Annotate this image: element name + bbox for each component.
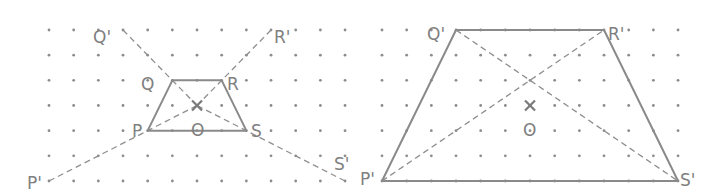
grid-dot (603, 79, 606, 82)
grid-dot (504, 79, 507, 82)
label-s-prime: S' (680, 170, 695, 190)
left-panel-construction: P Q R S O P' Q' R' S' (27, 27, 349, 193)
grid-dot (627, 154, 630, 157)
grid-dot (553, 79, 556, 82)
grid-dot (603, 154, 606, 157)
grid-dot (122, 54, 125, 57)
grid-dot (430, 54, 433, 57)
diagonal (456, 30, 678, 181)
grid-dot (479, 104, 482, 107)
grid-dot (455, 79, 458, 82)
grid-dot (627, 104, 630, 107)
grid-dot (381, 129, 384, 132)
label-s-prime: S' (334, 154, 349, 174)
grid-dot (146, 29, 149, 32)
grid-dot (48, 54, 51, 57)
grid-dot (627, 29, 630, 32)
enlargement-diagram: P Q R S O P' Q' R' S' O P' Q' R' S' (0, 0, 723, 195)
grid-dot (122, 79, 125, 82)
grid-dot (455, 54, 458, 57)
grid-dot (245, 104, 248, 107)
grid-dot (220, 180, 223, 183)
label-q-prime: Q' (93, 27, 111, 47)
grid-dot (270, 54, 273, 57)
grid-dot (270, 129, 273, 132)
diagonal (382, 30, 604, 181)
grid-dot (220, 104, 223, 107)
grid-dot (245, 180, 248, 183)
grid-dot (652, 54, 655, 57)
grid-dot (270, 154, 273, 157)
grid-dot (171, 180, 174, 183)
grid-dot (455, 104, 458, 107)
grid-dot (72, 180, 75, 183)
grid-dot (319, 54, 322, 57)
label-r: R (227, 74, 239, 94)
grid-dot (146, 154, 149, 157)
grid-dot (270, 79, 273, 82)
grid-dot (97, 79, 100, 82)
grid-dot (504, 104, 507, 107)
grid-dot (578, 104, 581, 107)
grid-dot (122, 129, 125, 132)
grid-dot (294, 54, 297, 57)
ray-s (197, 106, 345, 182)
grid-dot (677, 129, 680, 132)
grid-dot (381, 154, 384, 157)
grid-dot (381, 104, 384, 107)
grid-dot (553, 104, 556, 107)
grid-dot (97, 54, 100, 57)
grid-dot (344, 29, 347, 32)
grid-dot (652, 154, 655, 157)
right-panel-result: O P' Q' R' S' (360, 24, 695, 190)
grid-dot (122, 180, 125, 183)
grid-dot (578, 129, 581, 132)
grid-dot (677, 79, 680, 82)
centre-of-enlargement-mark (192, 101, 202, 111)
grid-dot (319, 104, 322, 107)
grid-dot (381, 79, 384, 82)
grid-dot (146, 104, 149, 107)
grid-dot (344, 129, 347, 132)
grid-dot (72, 54, 75, 57)
grid-dot (430, 104, 433, 107)
grid-dot (319, 129, 322, 132)
grid-dot (603, 104, 606, 107)
grid-dot (196, 154, 199, 157)
ray-r (197, 30, 271, 106)
grid-dot (319, 180, 322, 183)
grid-dot (122, 154, 125, 157)
ray-p (49, 106, 197, 182)
grid-dot (72, 129, 75, 132)
grid-dot (171, 29, 174, 32)
grid-dot (270, 180, 273, 183)
grid-dot (578, 79, 581, 82)
grid-dot (529, 154, 532, 157)
grid-dot (504, 154, 507, 157)
label-q: Q (141, 74, 154, 94)
grid-dot (294, 79, 297, 82)
grid-dot (72, 154, 75, 157)
grid-dot (196, 180, 199, 183)
grid-dot (344, 104, 347, 107)
grid-dot (677, 104, 680, 107)
grid-dot (196, 29, 199, 32)
grid-dot (677, 54, 680, 57)
grid-dot (627, 54, 630, 57)
grid-dot (72, 104, 75, 107)
grid-dot (553, 54, 556, 57)
grid-dot (48, 154, 51, 157)
grid-dot (245, 154, 248, 157)
grid-dot (405, 154, 408, 157)
grid-dot (479, 79, 482, 82)
grid-dot (578, 154, 581, 157)
grid-dot (220, 154, 223, 157)
grid-dot (72, 29, 75, 32)
grid-dot (405, 104, 408, 107)
ray-q (123, 30, 197, 106)
grid-dot (430, 154, 433, 157)
grid-dot (146, 180, 149, 183)
grid-dot (504, 129, 507, 132)
label-r-prime: R' (608, 24, 625, 44)
grid-dot (319, 79, 322, 82)
